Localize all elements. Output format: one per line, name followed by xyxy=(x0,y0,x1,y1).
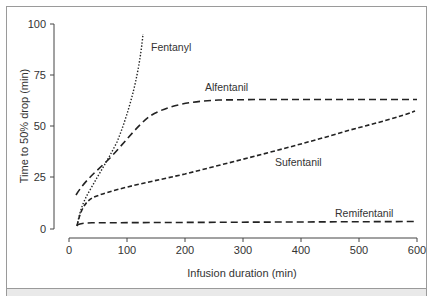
x-tick-300: 300 xyxy=(234,244,252,256)
fentanyl-label: Fentanyl xyxy=(151,41,191,53)
x-tick-0: 0 xyxy=(66,244,72,256)
y-tick-100: 100 xyxy=(28,18,46,30)
x-tick-400: 400 xyxy=(292,244,310,256)
y-tick-50: 50 xyxy=(34,120,46,132)
y-tick-75: 75 xyxy=(34,69,46,81)
x-tick-100: 100 xyxy=(118,244,136,256)
sufentanil-label: Sufentanil xyxy=(275,156,322,168)
y-tick-0: 0 xyxy=(40,223,46,235)
y-tick-25: 25 xyxy=(34,171,46,183)
alfentanil-label: Alfentanil xyxy=(205,81,248,93)
chart-svg: 100 75 50 25 0 Time to 50% drop (min) 0 … xyxy=(0,0,434,296)
x-tick-200: 200 xyxy=(176,244,194,256)
y-axis: 100 75 50 25 0 Time to 50% drop (min) xyxy=(18,18,54,235)
fentanyl-curve xyxy=(77,34,143,226)
x-tick-600: 600 xyxy=(408,244,426,256)
remifentanil-curve xyxy=(77,222,415,226)
x-axis: 0 100 200 300 400 500 600 Infusion durat… xyxy=(66,238,426,279)
y-axis-title: Time to 50% drop (min) xyxy=(18,69,30,184)
alfentanil-curve xyxy=(76,100,417,196)
x-tick-500: 500 xyxy=(350,244,368,256)
remifentanil-label: Remifentanil xyxy=(335,207,393,219)
x-axis-title: Infusion duration (min) xyxy=(187,267,296,279)
